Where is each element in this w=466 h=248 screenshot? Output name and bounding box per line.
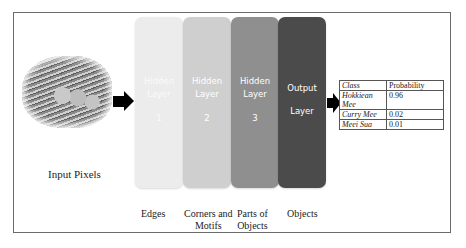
input-pixels-label: Input Pixels <box>48 168 101 180</box>
caption-line2: Objects <box>237 220 268 231</box>
caption-line2: Motifs <box>195 220 222 231</box>
layer-label-line1: Output <box>287 83 317 93</box>
caption-layer-3: Parts of Objects <box>237 208 268 232</box>
header-probability: Probability <box>387 81 444 91</box>
layer-label-line1: Hidden <box>240 76 270 86</box>
output-layer: Output Layer <box>278 17 326 188</box>
probability-cell: 0.01 <box>387 120 444 130</box>
table-header-row: Class Probability <box>340 81 444 91</box>
layer-label-line2: Layer <box>243 89 267 99</box>
header-class: Class <box>340 81 387 91</box>
hidden-layer-2: Hidden Layer 2 <box>183 17 231 188</box>
caption-line1: Edges <box>141 208 165 219</box>
caption-layer-2: Corners and Motifs <box>184 208 233 232</box>
probability-cell: 0.02 <box>387 110 444 120</box>
class-probability-table: Class Probability Hokkiean Mee 0.96 Curr… <box>339 80 444 130</box>
layer-label-line2: Layer <box>195 89 219 99</box>
input-food-image <box>22 56 112 128</box>
class-cell: Meei Sua <box>340 120 387 130</box>
class-cell: Hokkiean Mee <box>340 91 387 110</box>
layer-label-line1: Hidden <box>192 76 222 86</box>
layer-number: 1 <box>135 112 183 125</box>
layer-label-line1: Hidden <box>144 76 174 86</box>
probability-cell: 0.96 <box>387 91 444 110</box>
layer-label-line2: Layer <box>278 105 326 118</box>
caption-line1: Corners and <box>184 208 233 219</box>
caption-line1: Parts of <box>237 208 268 219</box>
caption-layer-1: Edges <box>141 208 165 220</box>
table-row: Meei Sua 0.01 <box>340 120 444 130</box>
table-row: Hokkiean Mee 0.96 <box>340 91 444 110</box>
layer-number: 2 <box>183 112 231 125</box>
caption-layer-4: Objects <box>287 208 318 220</box>
table-row: Curry Mee 0.02 <box>340 110 444 120</box>
hidden-layer-3: Hidden Layer 3 <box>231 17 279 188</box>
caption-line1: Objects <box>287 208 318 219</box>
layer-label-line2: Layer <box>147 89 171 99</box>
hidden-layer-1: Hidden Layer 1 <box>135 17 183 188</box>
layer-number: 3 <box>231 112 279 125</box>
class-cell: Curry Mee <box>340 110 387 120</box>
